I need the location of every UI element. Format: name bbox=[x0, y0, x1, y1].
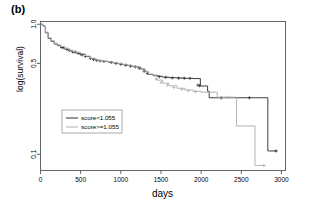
svg-text:3000: 3000 bbox=[274, 176, 289, 183]
svg-text:score>=1.055: score>=1.055 bbox=[81, 123, 119, 130]
svg-text:2000: 2000 bbox=[194, 176, 209, 183]
svg-text:1500: 1500 bbox=[154, 176, 169, 183]
series-curves bbox=[41, 24, 278, 167]
axes: 0500100015002000250030001.00.50.1 bbox=[31, 19, 290, 182]
figure-panel: (b) log(survival) days 05001000150020002… bbox=[0, 0, 309, 207]
svg-text:2500: 2500 bbox=[234, 176, 249, 183]
svg-text:1000: 1000 bbox=[114, 176, 129, 183]
svg-text:score<1.055: score<1.055 bbox=[81, 114, 116, 121]
svg-text:1.0: 1.0 bbox=[31, 19, 38, 28]
svg-text:0: 0 bbox=[39, 176, 43, 183]
legend: score<1.055score>=1.055 bbox=[62, 110, 122, 133]
svg-text:0.5: 0.5 bbox=[31, 58, 38, 67]
survival-plot: 0500100015002000250030001.00.50.1 score<… bbox=[0, 0, 309, 207]
svg-text:0.1: 0.1 bbox=[31, 149, 38, 158]
svg-text:500: 500 bbox=[75, 176, 86, 183]
plot-frame bbox=[41, 22, 286, 171]
